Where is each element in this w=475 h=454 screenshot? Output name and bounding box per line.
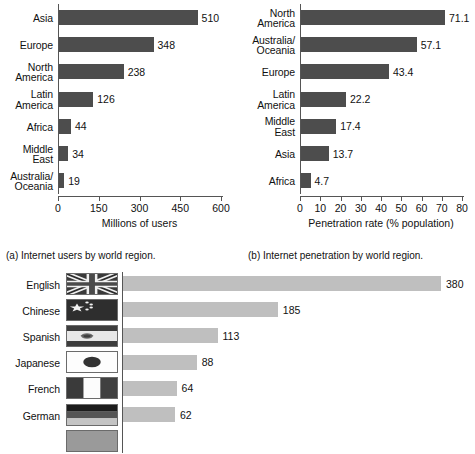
bar-value-label: 88 [202, 357, 214, 368]
x-axis-tick [422, 197, 423, 201]
category-label: Chinese [0, 306, 60, 317]
bar [301, 10, 445, 25]
bar [123, 407, 175, 422]
bar [59, 64, 124, 79]
bar-value-label: 126 [97, 94, 115, 105]
x-axis-tick [381, 197, 382, 201]
category-label: North America [240, 8, 295, 29]
bar-value-label: 43.4 [393, 67, 413, 78]
category-label: Latin America [0, 89, 53, 110]
bar-value-label: 34 [72, 149, 84, 160]
category-label: Australia/ Oceania [0, 171, 53, 192]
x-axis-tick [180, 197, 181, 201]
bar [301, 146, 329, 161]
category-label: Middle East [0, 144, 53, 165]
bar-value-label: 17.4 [340, 121, 360, 132]
x-axis-title: Millions of users [18, 218, 261, 229]
x-axis-tick [300, 197, 301, 201]
bar [301, 92, 346, 107]
category-label: Africa [240, 176, 295, 187]
germany-flag [66, 404, 118, 426]
x-axis-tick [401, 197, 402, 201]
category-label: Middle East [240, 116, 295, 137]
bar-value-label: 113 [223, 331, 240, 342]
category-label: North America [0, 62, 53, 83]
spain-flag [66, 325, 118, 347]
x-axis-tick [320, 197, 321, 201]
japan-flag [66, 351, 118, 373]
category-label: Asia [240, 149, 295, 160]
bar-value-label: 13.7 [333, 149, 353, 160]
category-label: Africa [0, 122, 53, 133]
bar-value-label: 348 [158, 40, 176, 51]
france-flag [66, 377, 118, 399]
bar [123, 302, 278, 317]
bar-value-label: 380 [446, 279, 464, 290]
figure-caption-b: (b) Internet penetration by world region… [248, 250, 423, 261]
category-label: Spanish [0, 332, 60, 343]
category-label: English [0, 280, 60, 291]
category-label: Europe [0, 40, 53, 51]
bar [301, 37, 417, 52]
bar-value-label: 44 [75, 121, 87, 132]
chart-internet-penetration-by-region: North America71.1Australia/ Oceania57.1E… [240, 0, 475, 248]
china-flag [66, 299, 118, 321]
chart-internet-users-by-region: Asia510Europe348North America238Latin Am… [0, 0, 240, 248]
bar-value-label: 71.1 [449, 13, 469, 24]
bar [301, 64, 389, 79]
bar-value-label: 510 [202, 13, 220, 24]
bar [59, 119, 71, 134]
bar [59, 10, 198, 25]
x-axis-line [58, 196, 223, 197]
category-label: German [0, 411, 60, 422]
x-axis-tick-label: 150 [81, 203, 117, 214]
category-label: Australia/ Oceania [240, 35, 295, 56]
bar [59, 37, 154, 52]
x-axis-tick [140, 197, 141, 201]
x-axis-tick [58, 197, 59, 201]
x-axis-tick [462, 197, 463, 201]
category-label: Japanese [0, 358, 60, 369]
x-axis-tick-label: 80 [446, 203, 475, 214]
bar [301, 173, 311, 188]
x-axis-tick-label: 300 [122, 203, 158, 214]
bar [59, 92, 93, 107]
bar-value-label: 22.2 [350, 94, 370, 105]
x-axis-tick-label: 450 [162, 203, 198, 214]
bar-value-label: 185 [283, 305, 301, 316]
bar [123, 276, 441, 291]
bar [59, 173, 64, 188]
category-label: Asia [0, 13, 53, 24]
x-axis-tick [99, 197, 100, 201]
bar [123, 381, 177, 396]
x-axis-tick [341, 197, 342, 201]
bar-value-label: 62 [180, 410, 192, 421]
bar-value-label: 4.7 [315, 176, 330, 187]
figure-caption-a: (a) Internet users by world region. [6, 250, 156, 261]
bar [123, 328, 218, 343]
x-axis-tick [221, 197, 222, 201]
bar [123, 355, 197, 370]
united-kingdom-flag [66, 273, 118, 295]
category-label: Latin America [240, 89, 295, 110]
chart-internet-users-by-language: English 380Chinese 185Spanish [0, 272, 475, 454]
bar-value-label: 57.1 [421, 40, 441, 51]
bar [59, 146, 68, 161]
x-axis-title: Penetration rate (% population) [250, 218, 475, 229]
x-axis-tick-label: 0 [40, 203, 76, 214]
cropped-flag [66, 430, 118, 452]
bar-value-label: 64 [182, 383, 194, 394]
x-axis-tick-label: 600 [203, 203, 239, 214]
bar-value-label: 238 [128, 67, 146, 78]
category-label: Europe [240, 67, 295, 78]
bar-value-label: 19 [68, 176, 80, 187]
x-axis-tick [361, 197, 362, 201]
category-label: French [0, 384, 60, 395]
bar [301, 119, 336, 134]
x-axis-tick [442, 197, 443, 201]
x-axis-line [300, 196, 464, 197]
